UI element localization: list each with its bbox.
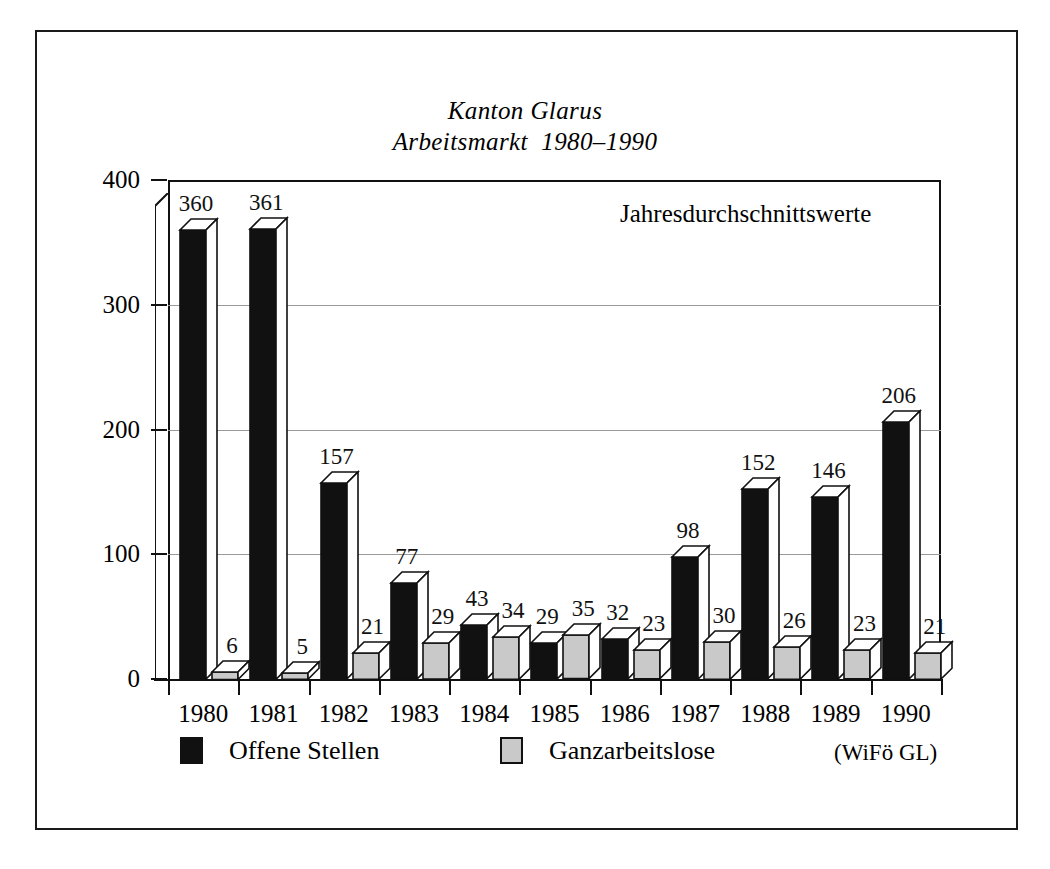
x-tick-1983 [379,681,381,695]
chart-title-block: Kanton Glarus Arbeitsmarkt 1980–1990 [0,95,1050,157]
legend-item-offene-stellen: Offene Stellen [180,737,379,764]
legend-item-ganzarbeitslose: Ganzarbeitslose [500,737,715,764]
y-tick-label-400: 400 [50,167,140,192]
value-label-ganzarbeitslose-1982: 21 [338,615,408,638]
x-tick-1984 [449,681,451,695]
bar-offene-stellen-1981 [249,217,288,680]
page-title: Kanton Glarus [0,95,1050,126]
value-label-offene-stellen-1981: 361 [231,191,301,214]
x-tick-end [941,681,943,695]
plot-depth-edge [155,193,168,679]
bar-ganzarbeitslose-1988 [773,635,812,680]
bar-offene-stellen-1990 [882,410,921,680]
x-tick-1982 [309,681,311,695]
value-label-ganzarbeitslose-1980: 6 [197,634,267,657]
value-label-offene-stellen-1989: 146 [793,459,863,482]
y-tick-200 [151,429,167,431]
black-square-icon [180,737,203,764]
grey-square-icon [500,737,523,764]
y-tick-label-100: 100 [50,541,140,566]
bar-ganzarbeitslose-1990 [914,641,953,680]
x-tick-1985 [519,681,521,695]
value-label-ganzarbeitslose-1990: 21 [900,615,970,638]
bar-offene-stellen-1980 [179,218,218,680]
bar-ganzarbeitslose-1980 [211,660,250,680]
bar-ganzarbeitslose-1985 [562,623,601,680]
value-label-offene-stellen-1990: 206 [864,384,934,407]
value-label-ganzarbeitslose-1987: 30 [689,604,759,627]
bar-ganzarbeitslose-1989 [843,638,882,680]
bar-ganzarbeitslose-1983 [422,631,461,680]
value-label-ganzarbeitslose-1989: 23 [829,612,899,635]
y-tick-400 [151,179,167,181]
chart-legend: Offene Stellen Ganzarbeitslose (WiFö GL) [0,735,1050,775]
value-label-offene-stellen-1988: 152 [723,451,793,474]
value-label-offene-stellen-1987: 98 [653,519,723,542]
source-note: (WiFö GL) [834,741,937,764]
bar-ganzarbeitslose-1981 [281,661,320,680]
x-tick-1989 [800,681,802,695]
x-label-1990: 1990 [861,701,951,726]
legend-label-ganzarbeitslose: Ganzarbeitslose [549,738,715,764]
y-tick-300 [151,304,167,306]
bar-ganzarbeitslose-1987 [703,630,742,680]
y-tick-100 [151,553,167,555]
value-label-offene-stellen-1983: 77 [372,545,442,568]
bar-ganzarbeitslose-1982 [352,641,391,680]
legend-label-offene-stellen: Offene Stellen [229,738,379,764]
x-tick-1986 [590,681,592,695]
value-label-ganzarbeitslose-1988: 26 [759,609,829,632]
plot-area: 3606361515721772943342935322398301522614… [168,180,941,679]
chart-annotation: Jahresdurchschnittswerte [620,201,871,226]
y-tick-label-200: 200 [50,417,140,442]
y-tick-label-300: 300 [50,292,140,317]
value-label-offene-stellen-1980: 360 [161,192,231,215]
chart-subtitle: Arbeitsmarkt 1980–1990 [0,126,1050,157]
bar-ganzarbeitslose-1986 [633,638,672,680]
bar-ganzarbeitslose-1984 [492,625,531,680]
y-tick-0 [151,678,167,680]
value-label-ganzarbeitslose-1981: 5 [267,635,337,658]
x-tick-1990 [871,681,873,695]
y-tick-label-0: 0 [50,666,140,691]
x-tick-1988 [730,681,732,695]
x-tick-1987 [660,681,662,695]
chart-page: Kanton Glarus Arbeitsmarkt 1980–1990 360… [0,0,1050,869]
x-tick-1981 [238,681,240,695]
value-label-offene-stellen-1982: 157 [302,445,372,468]
x-tick-1980 [168,681,170,695]
value-label-ganzarbeitslose-1986: 23 [619,612,689,635]
